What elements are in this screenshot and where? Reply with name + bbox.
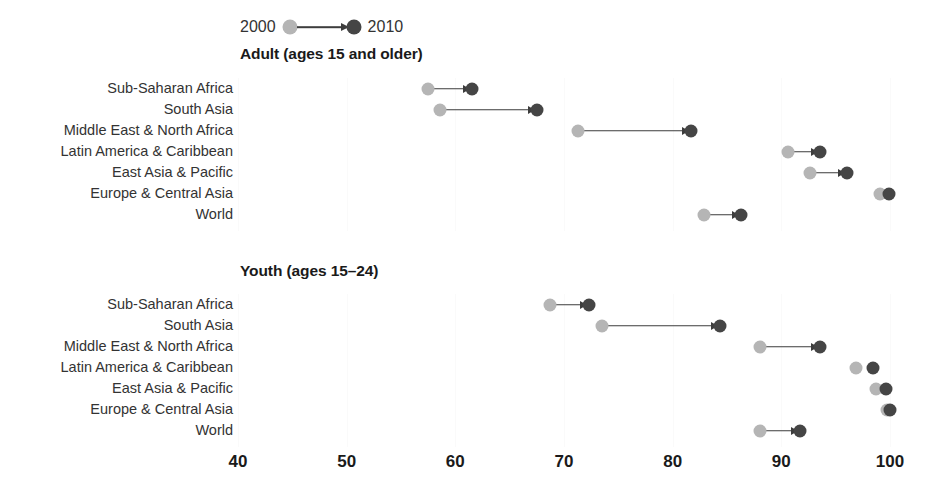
data-point-2000[interactable] [434, 103, 447, 116]
change-connector [607, 325, 714, 327]
row-label-latin-america-caribbean: Latin America & Caribbean [61, 357, 234, 378]
data-point-2010[interactable] [685, 124, 698, 137]
legend-arrow-icon [283, 19, 361, 35]
data-point-2010[interactable] [465, 82, 478, 95]
data-point-2010[interactable] [582, 298, 595, 311]
data-point-2010[interactable] [884, 403, 897, 416]
data-point-2000[interactable] [753, 340, 766, 353]
chart-row: Sub-Saharan Africa [0, 78, 927, 99]
row-label-sub-saharan-africa: Sub-Saharan Africa [107, 78, 233, 99]
change-connector [445, 109, 531, 111]
chart-row: Middle East & North Africa [0, 336, 927, 357]
plot-area-0: Sub-Saharan AfricaSouth AsiaMiddle East … [0, 78, 927, 231]
x-axis-tick-90: 90 [772, 452, 791, 472]
row-label-middle-east-north-africa: Middle East & North Africa [64, 120, 233, 141]
data-point-2010[interactable] [714, 319, 727, 332]
data-point-2000[interactable] [572, 124, 585, 137]
x-axis-tick-40: 40 [229, 452, 248, 472]
x-axis-tick-100: 100 [876, 452, 904, 472]
x-axis-tick-60: 60 [446, 452, 465, 472]
data-point-2000[interactable] [422, 82, 435, 95]
row-label-east-asia-pacific: East Asia & Pacific [112, 378, 233, 399]
change-connector [765, 346, 815, 348]
chart-row: Latin America & Caribbean [0, 357, 927, 378]
legend-dot-2000 [282, 20, 297, 35]
chart-row: Europe & Central Asia [0, 183, 927, 204]
data-point-2010[interactable] [882, 187, 895, 200]
legend-label-2000: 2000 [240, 19, 276, 35]
data-point-2010[interactable] [530, 103, 543, 116]
data-point-2010[interactable] [793, 424, 806, 437]
row-label-east-asia-pacific: East Asia & Pacific [112, 162, 233, 183]
data-point-2000[interactable] [781, 145, 794, 158]
data-point-2000[interactable] [850, 361, 863, 374]
chart-row: World [0, 204, 927, 225]
change-connector [433, 88, 465, 90]
row-label-sub-saharan-africa: Sub-Saharan Africa [107, 294, 233, 315]
row-label-south-asia: South Asia [164, 315, 233, 336]
legend: 2000 2010 [240, 16, 403, 38]
data-point-2000[interactable] [596, 319, 609, 332]
chart-row: Sub-Saharan Africa [0, 294, 927, 315]
data-point-2000[interactable] [803, 166, 816, 179]
chart-row: South Asia [0, 99, 927, 120]
panel-title-1: Youth (ages 15–24) [240, 262, 378, 280]
change-connector [765, 430, 794, 432]
chart-row: World [0, 420, 927, 441]
x-axis: 405060708090100 [0, 452, 927, 480]
data-point-2010[interactable] [840, 166, 853, 179]
change-connector [583, 130, 685, 132]
data-point-2010[interactable] [879, 382, 892, 395]
panel-title-0: Adult (ages 15 and older) [240, 45, 423, 63]
row-label-world: World [195, 204, 233, 225]
change-connector [555, 304, 583, 306]
data-point-2000[interactable] [698, 208, 711, 221]
data-point-2000[interactable] [753, 424, 766, 437]
row-label-middle-east-north-africa: Middle East & North Africa [64, 336, 233, 357]
chart-row: Middle East & North Africa [0, 120, 927, 141]
row-label-latin-america-caribbean: Latin America & Caribbean [61, 141, 234, 162]
x-axis-tick-80: 80 [663, 452, 682, 472]
chart-row: East Asia & Pacific [0, 162, 927, 183]
data-point-2010[interactable] [814, 145, 827, 158]
chart-root: 2000 2010 Adult (ages 15 and older)Sub-S… [0, 0, 927, 487]
row-label-europe-central-asia: Europe & Central Asia [90, 183, 233, 204]
chart-row: Europe & Central Asia [0, 399, 927, 420]
data-point-2010[interactable] [735, 208, 748, 221]
row-label-europe-central-asia: Europe & Central Asia [90, 399, 233, 420]
data-point-2010[interactable] [866, 361, 879, 374]
row-label-south-asia: South Asia [164, 99, 233, 120]
legend-dot-2010 [346, 20, 361, 35]
data-point-2010[interactable] [814, 340, 827, 353]
chart-row: South Asia [0, 315, 927, 336]
plot-area-1: Sub-Saharan AfricaSouth AsiaMiddle East … [0, 294, 927, 447]
x-axis-tick-70: 70 [555, 452, 574, 472]
legend-label-2010: 2010 [368, 19, 404, 35]
legend-arrow-shaft [297, 26, 347, 28]
row-label-world: World [195, 420, 233, 441]
chart-row: East Asia & Pacific [0, 378, 927, 399]
data-point-2000[interactable] [543, 298, 556, 311]
chart-row: Latin America & Caribbean [0, 141, 927, 162]
x-axis-tick-50: 50 [337, 452, 356, 472]
